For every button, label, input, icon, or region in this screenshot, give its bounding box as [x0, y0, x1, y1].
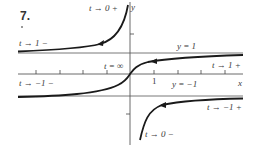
decorative-dot: [21, 26, 23, 28]
label-t-to-1-plus: t → 1 +: [212, 61, 241, 70]
x-tick-label-1: 1: [152, 77, 157, 86]
label-t-to-neg1-plus: t → −1 +: [207, 103, 242, 112]
arrow-head-middle: [150, 59, 157, 65]
label-t-to-1-minus: t → 1 −: [19, 39, 48, 48]
asymptote-label-y-neg1: y = −1: [172, 80, 197, 89]
label-t-infinity: t = ∞: [104, 62, 124, 71]
asymptote-label-y-1: y = 1: [177, 42, 196, 51]
graph-canvas: [0, 0, 256, 147]
parametric-graph: 7. t → 0 + y t → 1 − y = 1 t = ∞ t → 1 +…: [0, 0, 256, 147]
arrow-head-lower-right: [159, 102, 166, 108]
curve-middle-branch: [18, 55, 243, 97]
problem-number: 7.: [20, 9, 30, 23]
y-axis-label: y: [131, 3, 135, 12]
label-t-to-neg1-minus: t → −1 −: [19, 79, 54, 88]
label-t-to-0-plus: t → 0 +: [89, 4, 118, 13]
label-t-to-0-minus: t → 0 −: [145, 130, 174, 139]
x-axis-label: x: [238, 79, 242, 88]
